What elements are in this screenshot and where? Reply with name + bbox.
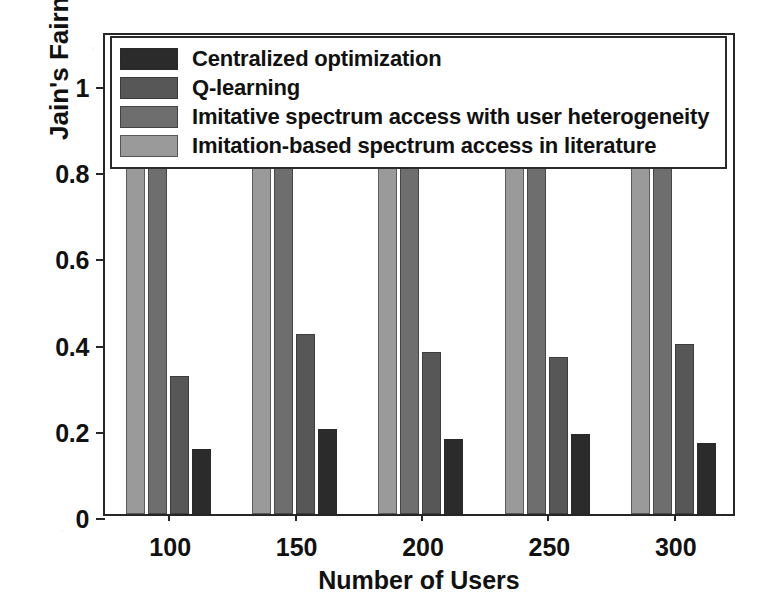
x-axis-tick-label: 100 xyxy=(149,533,191,562)
x-axis-title: Number of Users xyxy=(103,566,735,595)
legend-swatch-icon xyxy=(120,106,178,128)
legend-item[interactable]: Imitation-based spectrum access in liter… xyxy=(120,131,717,160)
bar[interactable] xyxy=(631,124,650,514)
y-axis-tick-label: 1 xyxy=(75,74,89,103)
legend-item[interactable]: Q-learning xyxy=(120,73,717,102)
legend-item-label: Imitative spectrum access with user hete… xyxy=(192,104,709,130)
y-axis-tick-label: 0.8 xyxy=(55,160,89,189)
y-axis-tick-label: 0.6 xyxy=(55,246,89,275)
bar[interactable] xyxy=(697,443,716,514)
bar[interactable] xyxy=(422,352,441,514)
x-axis-tick-label: 150 xyxy=(276,533,318,562)
x-axis-tick-label: 300 xyxy=(655,533,697,562)
y-axis-tick-mark: 0.2 xyxy=(96,432,105,434)
figure-container: Jain's Fairness Index 00.20.40.60.81 100… xyxy=(0,0,777,603)
x-axis-tick-mark: 200 xyxy=(421,514,423,521)
x-axis-tick-mark: 300 xyxy=(674,514,676,521)
legend-item-label: Imitation-based spectrum access in liter… xyxy=(192,133,656,159)
legend-swatch-icon xyxy=(120,48,178,70)
bar[interactable] xyxy=(571,434,590,514)
legend-swatch-icon xyxy=(120,77,178,99)
x-axis-tick-mark: 150 xyxy=(295,514,297,521)
legend: Centralized optimizationQ-learningImitat… xyxy=(110,36,727,169)
bar[interactable] xyxy=(252,114,271,514)
x-axis-tick-mark: 250 xyxy=(547,514,549,521)
legend-item-label: Q-learning xyxy=(192,75,300,101)
bar[interactable] xyxy=(170,376,189,514)
bar[interactable] xyxy=(653,110,672,514)
bar[interactable] xyxy=(675,344,694,514)
legend-swatch-icon xyxy=(120,135,178,157)
y-axis-tick-mark: 0 xyxy=(96,518,105,520)
legend-item-label: Centralized optimization xyxy=(192,46,441,72)
bar[interactable] xyxy=(296,334,315,514)
y-axis-tick-mark: 0.8 xyxy=(96,173,105,175)
y-axis-tick-mark: 0.6 xyxy=(96,259,105,261)
y-axis-tick-label: 0.4 xyxy=(55,332,89,361)
bar[interactable] xyxy=(549,357,568,514)
y-axis-title-wrapper: Jain's Fairness Index xyxy=(44,140,45,141)
bar[interactable] xyxy=(444,439,463,514)
y-axis-tick-label: 0.2 xyxy=(55,419,89,448)
x-axis-tick-label: 250 xyxy=(529,533,571,562)
bar[interactable] xyxy=(192,449,211,514)
x-axis-tick-label: 200 xyxy=(402,533,444,562)
y-axis-tick-mark: 0.4 xyxy=(96,346,105,348)
legend-item[interactable]: Imitative spectrum access with user hete… xyxy=(120,102,717,131)
legend-item[interactable]: Centralized optimization xyxy=(120,44,717,73)
bar[interactable] xyxy=(318,429,337,514)
x-axis-tick-mark: 100 xyxy=(168,514,170,521)
y-axis-title: Jain's Fairness Index xyxy=(44,0,75,140)
y-axis-tick-mark: 1 xyxy=(96,87,105,89)
bar[interactable] xyxy=(378,118,397,514)
y-axis-tick-label: 0 xyxy=(75,505,89,534)
